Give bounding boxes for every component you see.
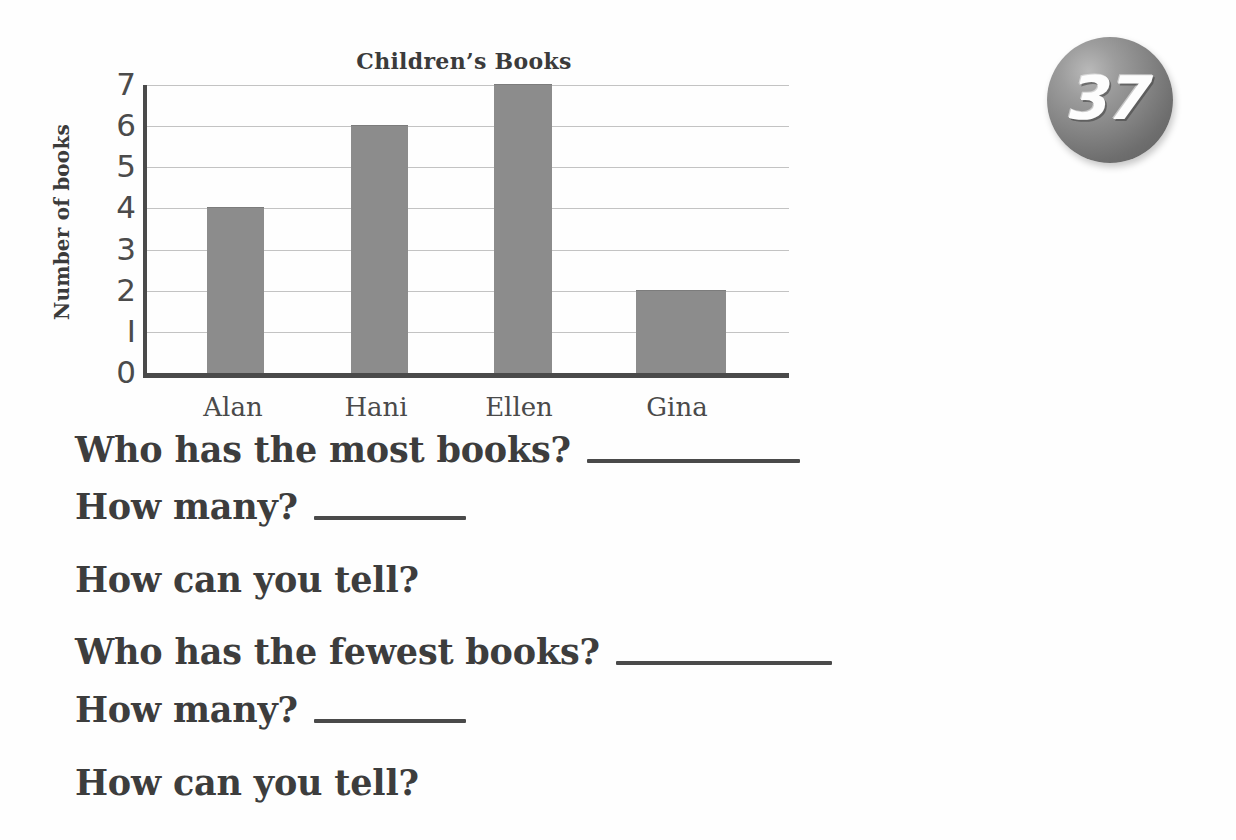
question-row: Who has the fewest books? bbox=[75, 634, 832, 669]
question-text: How many? bbox=[75, 489, 298, 524]
x-tick-label-alan: Alan bbox=[158, 392, 308, 422]
y-tick-label: 6 bbox=[116, 110, 136, 141]
question-row: How many? bbox=[75, 489, 466, 524]
bar-chart: Children’s Books Number of books 0I23456… bbox=[0, 0, 830, 430]
worksheet-page: 37 Children’s Books Number of books 0I23… bbox=[0, 0, 1236, 840]
answer-blank[interactable] bbox=[587, 459, 800, 463]
y-tick-label: 0 bbox=[116, 357, 136, 388]
question-row: How can you tell? bbox=[75, 562, 419, 597]
question-text: How many? bbox=[75, 692, 298, 727]
y-axis-label: Number of books bbox=[50, 117, 74, 327]
gridline bbox=[147, 167, 789, 168]
page-number-badge: 37 bbox=[1047, 37, 1173, 163]
y-tick-label: 2 bbox=[116, 275, 136, 306]
question-text: How can you tell? bbox=[75, 765, 419, 800]
y-tick-label: 5 bbox=[116, 151, 136, 182]
bar-gina bbox=[636, 290, 726, 373]
y-tick-label: I bbox=[127, 316, 136, 347]
bar-hani bbox=[351, 125, 408, 373]
x-tick-label-ellen: Ellen bbox=[444, 392, 594, 422]
answer-blank[interactable] bbox=[314, 719, 466, 723]
question-row: Who has the most books? bbox=[75, 432, 800, 467]
bar-alan bbox=[207, 207, 264, 373]
plot-area: 0I234567 bbox=[143, 85, 789, 378]
y-tick-label: 3 bbox=[116, 233, 136, 264]
bar-ellen bbox=[494, 84, 552, 373]
y-tick-label: 4 bbox=[116, 192, 136, 223]
question-text: How can you tell? bbox=[75, 562, 419, 597]
page-number-text: 37 bbox=[1068, 68, 1152, 132]
question-row: How can you tell? bbox=[75, 765, 419, 800]
question-text: Who has the most books? bbox=[75, 432, 571, 467]
y-tick-label: 7 bbox=[116, 69, 136, 100]
answer-blank[interactable] bbox=[314, 516, 466, 520]
x-tick-label-hani: Hani bbox=[301, 392, 451, 422]
question-row: How many? bbox=[75, 692, 466, 727]
gridline bbox=[147, 85, 789, 86]
answer-blank[interactable] bbox=[616, 661, 832, 665]
question-text: Who has the fewest books? bbox=[75, 634, 600, 669]
x-tick-label-gina: Gina bbox=[602, 392, 752, 422]
chart-title: Children’s Books bbox=[143, 48, 785, 74]
gridline bbox=[147, 126, 789, 127]
